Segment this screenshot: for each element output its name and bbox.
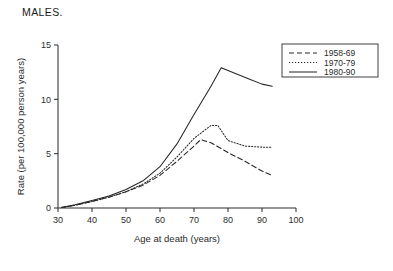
series-line-1980-90 <box>61 68 272 208</box>
chart-plot-area: 05101530405060708090100Age at death (yea… <box>0 0 393 271</box>
x-tick-label-70: 70 <box>189 215 199 225</box>
y-axis-label: Rate (per 100,000 person years) <box>15 58 26 195</box>
y-tick-label-5: 5 <box>46 149 51 159</box>
x-tick-label-60: 60 <box>155 215 165 225</box>
y-tick-label-10: 10 <box>41 95 51 105</box>
x-tick-label-30: 30 <box>53 215 63 225</box>
x-tick-label-100: 100 <box>288 215 303 225</box>
y-tick-label-0: 0 <box>46 203 51 213</box>
x-tick-label-50: 50 <box>121 215 131 225</box>
x-tick-label-80: 80 <box>223 215 233 225</box>
legend-label-1958-69: 1958-69 <box>324 48 355 58</box>
legend-label-1980-90: 1980-90 <box>324 67 355 77</box>
y-tick-label-15: 15 <box>41 40 51 50</box>
x-tick-label-90: 90 <box>257 215 267 225</box>
series-line-1970-79 <box>61 125 272 207</box>
legend-label-1970-79: 1970-79 <box>324 58 355 68</box>
series-line-1958-69 <box>61 140 272 208</box>
x-axis-label: Age at death (years) <box>134 233 220 244</box>
x-tick-label-40: 40 <box>87 215 97 225</box>
chart-figure: MALES. 05101530405060708090100Age at dea… <box>0 0 393 271</box>
